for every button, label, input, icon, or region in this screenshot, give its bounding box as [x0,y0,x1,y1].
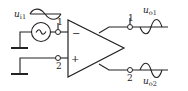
output-terminal-2 [128,68,133,73]
output-terminal-1 [128,25,133,30]
input-terminal-2 [56,56,61,61]
input-label: ui1 [14,9,26,21]
ac-tilde-icon [36,30,46,34]
input-terminal-1-label: 1 [57,17,63,27]
output-terminal-1-label: 1 [128,13,134,23]
output-2-label: uo2 [143,76,157,88]
input-terminal-2-label: 2 [56,61,62,71]
noninverting-sign: + [71,53,79,64]
circuit-diagram: ui1 1 2 − + 1 2 uo1 uo2 [0,0,188,91]
output-1-label: uo1 [143,5,157,17]
inverting-sign: − [72,28,80,39]
input-terminal-1 [56,30,61,35]
output-terminal-2-label: 2 [127,73,133,83]
